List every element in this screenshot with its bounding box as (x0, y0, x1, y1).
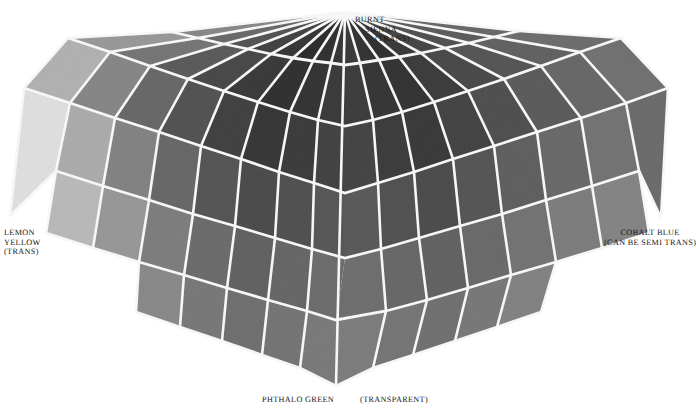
label-phthalo-green-line1: PHTHALO GREEN (262, 395, 334, 405)
label-cobalt-blue-line2: (CAN BE SEMI TRANS) (604, 238, 696, 248)
label-lemon-yellow-line1: LEMON (4, 228, 41, 238)
label-lemon-yellow: LEMON YELLOW (TRANS) (4, 228, 41, 257)
label-lemon-yellow-line3: (TRANS) (4, 247, 41, 257)
label-cobalt-blue: COBALT BLUE (CAN BE SEMI TRANS) (604, 228, 696, 247)
label-burnt-sienna-line3: (TRANS) (355, 34, 410, 44)
label-burnt-sienna-line2: SIENNA (355, 25, 410, 35)
label-phthalo-green-line2: (TRANSPARENT) (360, 395, 428, 405)
label-lemon-yellow-line2: YELLOW (4, 238, 41, 248)
label-phthalo-green: PHTHALO GREEN(TRANSPARENT) (262, 395, 428, 405)
label-burnt-sienna-line1: BURNT (355, 15, 410, 25)
label-cobalt-blue-line1: COBALT BLUE (604, 228, 696, 238)
label-burnt-sienna: BURNT SIENNA (TRANS) (355, 15, 410, 44)
swatch-tiles (10, 12, 668, 386)
